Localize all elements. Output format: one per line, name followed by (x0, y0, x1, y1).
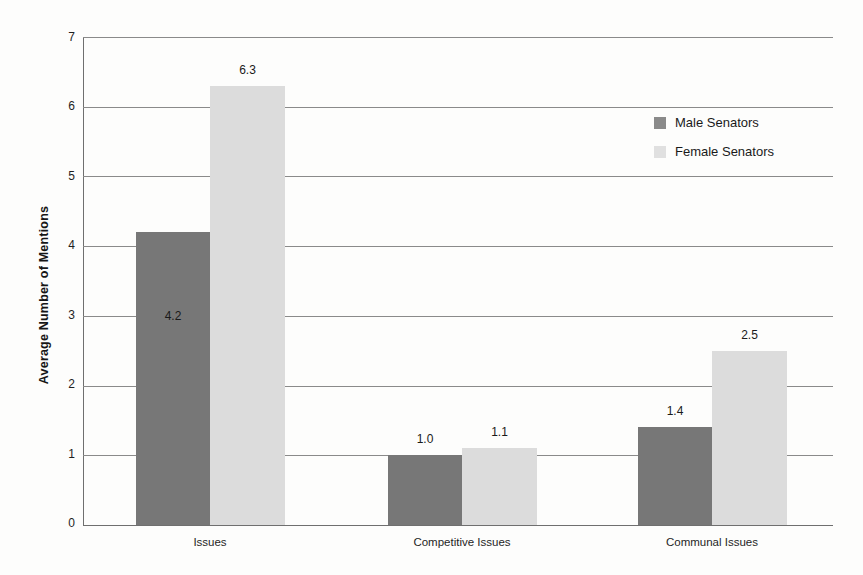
x-tick-label-issues: Issues (130, 536, 290, 548)
legend-label-female: Female Senators (675, 144, 774, 159)
gridline-0-baseline (83, 525, 833, 526)
y-axis-line (83, 37, 84, 526)
bar-label-communal-female: 2.5 (712, 328, 787, 342)
bar-communal-male (638, 427, 712, 525)
bar-label-issues-female: 6.3 (210, 63, 285, 77)
bar-issues-female (210, 86, 285, 525)
bar-competitive-male (388, 455, 462, 525)
y-tick-label-7: 7 (41, 30, 75, 44)
legend-label-male: Male Senators (675, 115, 759, 130)
legend-item-male: Male Senators (654, 108, 829, 137)
gridline-7 (83, 37, 833, 38)
legend-item-female: Female Senators (654, 137, 829, 166)
bar-label-competitive-female: 1.1 (462, 425, 537, 439)
y-tick-label-2: 2 (41, 377, 75, 391)
y-tick-label-6: 6 (41, 99, 75, 113)
y-tick-label-3: 3 (41, 308, 75, 322)
bar-issues-male (136, 232, 210, 525)
legend-swatch-icon-male (654, 117, 666, 129)
bar-label-issues-male: 4.2 (136, 309, 210, 323)
bar-label-communal-male: 1.4 (638, 404, 712, 418)
x-tick-label-communal: Communal Issues (632, 536, 792, 548)
y-tick-label-0: 0 (41, 516, 75, 530)
bar-label-competitive-male: 1.0 (388, 432, 462, 446)
y-tick-label-1: 1 (41, 447, 75, 461)
x-tick-label-competitive: Competitive Issues (382, 536, 542, 548)
legend-swatch-icon-female (654, 146, 666, 158)
legend: Male Senators Female Senators (654, 108, 829, 166)
bar-communal-female (712, 351, 787, 525)
bar-chart: Average Number of Mentions 7 6 5 4 3 2 1… (0, 0, 863, 575)
y-tick-label-5: 5 (41, 169, 75, 183)
gridline-5 (83, 176, 833, 177)
bar-competitive-female (462, 448, 537, 525)
y-tick-label-4: 4 (41, 238, 75, 252)
